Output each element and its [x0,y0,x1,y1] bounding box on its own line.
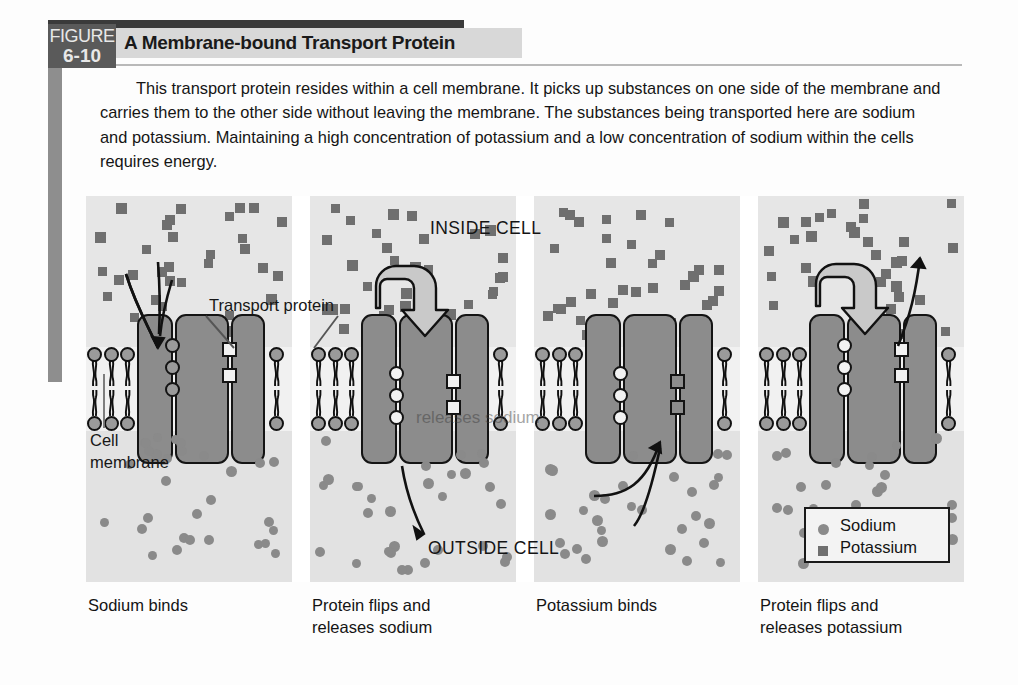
legend-label-potassium: Potassium [840,538,917,557]
header-bottom-rule [116,64,962,66]
panel-3-potassium-binds [534,196,740,582]
panel-2-caption-line1: Protein flips and [312,594,432,616]
panel-2-caption: Protein flips and releases sodium [312,594,432,638]
outside-cell-label: OUTSIDE CELL [428,538,559,559]
inside-cell-label: INSIDE CELL [430,218,541,239]
panel-4-caption: Protein flips and releases potassium [760,594,902,638]
panel-4-caption-line2: releases potassium [760,616,902,638]
figure-number-badge: FIGURE 6-10 [48,24,116,68]
panel-2-caption-line2: releases sodium [312,616,432,638]
legend-box: Sodium Potassium [804,507,950,563]
page-spine-bar [48,52,62,382]
diagram-canvas: INSIDE CELL OUTSIDE CELL Transport prote… [86,196,962,582]
panel-1-caption: Sodium binds [88,594,188,616]
legend-label-sodium: Sodium [840,516,896,535]
figure-page: FIGURE 6-10 A Membrane-bound Transport P… [0,0,1018,685]
sodium-binding-arrows [86,196,292,582]
panel-3-caption: Potassium binds [536,594,657,616]
panel-gap [740,196,758,582]
panel-1-sodium-binds [86,196,292,582]
protein-flip-arrow [310,196,516,582]
potassium-binding-arrows [534,196,740,582]
scan-artifact-text: releases sodium [416,408,540,428]
sodium-swatch-icon [818,524,829,535]
figure-badge-word: FIGURE [48,24,116,46]
cell-membrane-label-line1: Cell [90,431,118,450]
transport-protein-label: Transport protein [209,296,334,315]
cell-membrane-label-line2: membrane [90,453,169,472]
potassium-swatch-icon [818,546,828,556]
panel-3-caption-line1: Potassium binds [536,594,657,616]
panel-gap [292,196,310,582]
panel-1-caption-line1: Sodium binds [88,594,188,616]
panel-4-caption-line1: Protein flips and [760,594,902,616]
figure-title: A Membrane-bound Transport Protein [124,30,524,56]
panel-2-releases-sodium [310,196,516,582]
panel-gap [516,196,534,582]
figure-badge-number: 6-10 [48,46,116,66]
figure-caption: This transport protein resides within a … [100,76,946,173]
